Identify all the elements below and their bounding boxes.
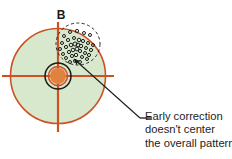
shot-point xyxy=(75,29,78,32)
shot-point xyxy=(83,32,86,35)
panel-label-b: B xyxy=(50,8,72,22)
callout-line-2: doesn't center xyxy=(145,123,231,136)
callout-text-block: Early correction doesn't center the over… xyxy=(145,110,231,150)
bullseye-core xyxy=(50,68,66,84)
callout-line-3: the overall pattern xyxy=(145,137,231,150)
shot-point xyxy=(89,34,92,37)
callout-line-1: Early correction xyxy=(145,110,231,123)
